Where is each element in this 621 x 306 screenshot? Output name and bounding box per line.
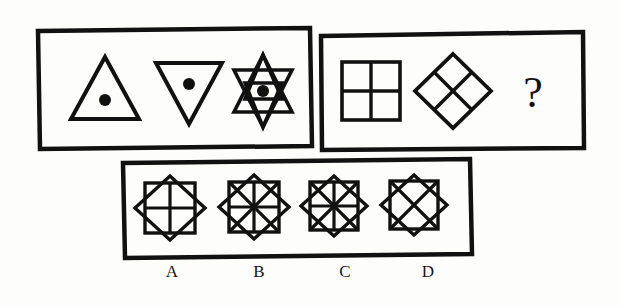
figure-down-triangle-dot [156,63,222,124]
center-dot [183,78,195,90]
figure-up-triangle-dot [71,57,139,119]
option-label-d: D [413,262,443,282]
center-dot [257,85,269,97]
option-label-c: C [330,262,360,282]
premise-panel-frame [38,28,312,149]
option-b[interactable] [219,175,289,239]
premise-panel [38,28,312,149]
options-panel [123,159,472,258]
center-dot [99,94,111,106]
option-c[interactable] [301,176,367,236]
figure-diamond-quadrants [415,54,491,128]
option-label-a: A [157,262,187,282]
option-label-b: B [244,262,274,282]
question-panel: ? [321,32,584,150]
puzzle-canvas: ? [0,0,621,306]
figure-question-mark: ? [523,68,543,117]
figure-six-point-star-dot [234,55,292,127]
option-a[interactable] [135,176,205,240]
figure-square-quadrants [342,62,400,120]
option-d[interactable] [381,175,447,235]
